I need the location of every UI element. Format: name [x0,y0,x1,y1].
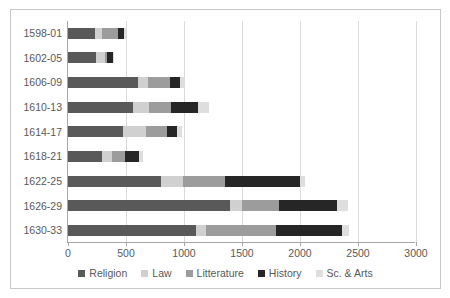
stacked-bar[interactable] [68,102,209,113]
bar-segment-law[interactable] [133,102,149,113]
stacked-bar[interactable] [68,77,185,88]
legend-swatch-icon [141,270,148,277]
bar-segment-sc-arts[interactable] [300,176,305,187]
bar-segment-history[interactable] [225,176,300,187]
bar-segment-law[interactable] [196,225,206,236]
bar-segment-law[interactable] [96,52,105,63]
legend-item-sc-arts[interactable]: Sc. & Arts [316,267,373,279]
bar-segment-history[interactable] [170,77,180,88]
gridline-3000 [416,21,417,242]
bar-row: 1610-13 [68,95,415,120]
legend-swatch-icon [316,270,323,277]
chart-frame: 1598-011602-051606-091610-131614-171618-… [10,9,441,289]
bar-segment-religion[interactable] [68,77,138,88]
bar-segment-law[interactable] [230,200,242,211]
bar-segment-religion[interactable] [68,102,133,113]
bar-segment-sc-arts[interactable] [177,126,182,137]
bar-segment-law[interactable] [138,77,148,88]
bar-segment-litterature[interactable] [102,28,118,39]
x-tick-label: 2500 [346,242,369,259]
x-tick-label: 1000 [172,242,195,259]
bar-row: 1626-29 [68,194,415,219]
bar-segment-history[interactable] [125,151,139,162]
bar-segment-history[interactable] [167,126,177,137]
stacked-bar[interactable] [68,200,348,211]
bar-segment-litterature[interactable] [242,200,279,211]
bar-segment-sc-arts[interactable] [337,200,347,211]
stacked-bar[interactable] [68,225,349,236]
legend-label: History [269,267,302,279]
bar-segment-sc-arts[interactable] [342,225,349,236]
stacked-bar[interactable] [68,176,305,187]
bar-segment-litterature[interactable] [146,126,167,137]
stacked-bar[interactable] [68,28,126,39]
legend-label: Law [152,267,171,279]
legend-swatch-icon [186,270,193,277]
bar-row: 1618-21 [68,144,415,169]
stacked-bar[interactable] [68,52,114,63]
bar-segment-litterature[interactable] [148,77,170,88]
bar-row: 1614-17 [68,120,415,145]
bar-row: 1606-09 [68,70,415,95]
bar-segment-law[interactable] [123,126,146,137]
x-tick-label: 3000 [404,242,427,259]
category-label: 1606-09 [23,77,68,88]
x-tick-label: 500 [117,242,135,259]
bar-segment-religion[interactable] [68,126,123,137]
legend-item-history[interactable]: History [258,267,302,279]
legend-label: Litterature [197,267,244,279]
bar-segment-sc-arts[interactable] [198,102,210,113]
stacked-bar[interactable] [68,151,143,162]
bar-segment-litterature[interactable] [206,225,276,236]
bar-row: 1602-05 [68,46,415,71]
x-tick-label: 0 [65,242,71,259]
category-label: 1602-05 [23,53,68,64]
stacked-bar[interactable] [68,126,182,137]
legend-swatch-icon [258,270,265,277]
category-label: 1618-21 [23,151,68,162]
bar-segment-religion[interactable] [68,52,96,63]
bar-segment-sc-arts[interactable] [139,151,144,162]
bar-segment-religion[interactable] [68,151,102,162]
legend-label: Sc. & Arts [327,267,373,279]
bar-segment-sc-arts[interactable] [124,28,126,39]
x-tick-label: 1500 [230,242,253,259]
bar-segment-religion[interactable] [68,28,95,39]
category-label: 1622-25 [23,176,68,187]
legend-item-religion[interactable]: Religion [78,267,127,279]
chart-legend: ReligionLawLitteratureHistorySc. & Arts [11,267,440,279]
bar-segment-sc-arts[interactable] [180,77,185,88]
legend-item-law[interactable]: Law [141,267,171,279]
legend-swatch-icon [78,270,85,277]
bar-segment-law[interactable] [95,28,102,39]
category-label: 1614-17 [23,127,68,138]
category-label: 1598-01 [23,28,68,39]
bar-segment-religion[interactable] [68,176,161,187]
category-label: 1610-13 [23,102,68,113]
bar-segment-litterature[interactable] [112,151,125,162]
legend-label: Religion [89,267,127,279]
x-tick-label: 2000 [288,242,311,259]
bar-segment-history[interactable] [276,225,342,236]
category-label: 1630-33 [23,225,68,236]
category-label: 1626-29 [23,201,68,212]
bar-segment-law[interactable] [161,176,183,187]
bar-segment-litterature[interactable] [183,176,225,187]
bar-segment-law[interactable] [102,151,112,162]
bar-row: 1598-01 [68,21,415,46]
bar-segment-religion[interactable] [68,225,196,236]
bar-row: 1622-25 [68,169,415,194]
bar-segment-religion[interactable] [68,200,230,211]
bar-segment-sc-arts[interactable] [113,52,114,63]
bar-segment-litterature[interactable] [149,102,171,113]
bar-segment-history[interactable] [171,102,198,113]
bar-segment-history[interactable] [279,200,337,211]
bar-row: 1630-33 [68,218,415,243]
plot-area: 1598-011602-051606-091610-131614-171618-… [67,21,415,243]
legend-item-litterature[interactable]: Litterature [186,267,244,279]
